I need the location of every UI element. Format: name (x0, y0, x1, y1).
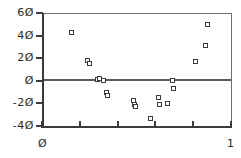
scatter-point (193, 59, 198, 64)
scatter-point (205, 22, 210, 27)
scatter-point (157, 102, 162, 107)
scatter-point (148, 116, 153, 121)
scatter-point (165, 101, 170, 106)
scatter-point (171, 86, 176, 91)
scatter-point (170, 78, 175, 83)
data-point-markers (0, 0, 241, 158)
scatter-point (156, 95, 161, 100)
scatter-point (105, 93, 110, 98)
scatter-point (101, 78, 106, 83)
scatter-plot: 6Ø4Ø2ØØ-2Ø-4Ø Ø1 (0, 0, 241, 158)
scatter-point (203, 43, 208, 48)
scatter-point (69, 30, 74, 35)
scatter-point (133, 104, 138, 109)
scatter-point (87, 61, 92, 66)
